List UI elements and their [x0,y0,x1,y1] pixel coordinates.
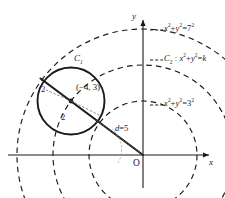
circle-c1-label: C1 [74,54,83,63]
center-coordinate-label: (−4, 3) [76,83,100,92]
origin-label: O [133,159,140,169]
distance-label: d=5 [115,124,128,133]
radius-label-upper: 2 [41,85,45,94]
y-axis-arrowhead [140,20,145,26]
equation-middle-circle-c2: C2 : x2+y2=k [164,54,206,63]
x-axis-label: x [209,158,213,167]
radius-label-lower: 2 [61,113,65,122]
equation-inner-circle: x2+y2=32 [164,99,194,108]
y-axis-label: y [132,12,136,21]
geometry-figure: x y O x2+y2=72 C2 : x2+y2=k x2+y2=32 C1 … [0,0,225,198]
equation-outer-circle: x2+y2=72 [164,24,194,33]
